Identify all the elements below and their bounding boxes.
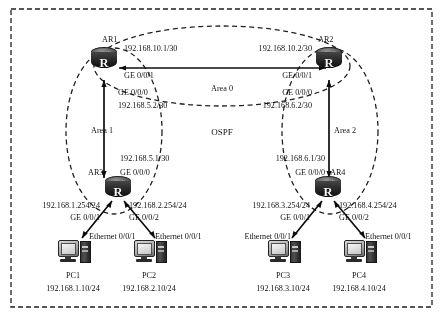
pc-screen xyxy=(61,243,76,255)
router-label-ar4: AR4 xyxy=(330,168,345,177)
pc4-address: 192.168.4.10/24 xyxy=(332,284,385,293)
router-label-ar3: AR3 xyxy=(88,168,103,177)
pc-stand-base xyxy=(136,259,152,262)
pc2-address: 192.168.2.10/24 xyxy=(122,284,175,293)
link-ar1-ar2-arrow-left xyxy=(119,65,126,70)
pc3-address: 192.168.3.10/24 xyxy=(256,284,309,293)
ar4-ge000-address: 192.168.6.1/30 xyxy=(276,154,325,163)
ar3-ge001-address: 192.168.1.254/24 xyxy=(42,201,100,210)
host-pc3[interactable] xyxy=(267,240,301,267)
ar3-ge001-port: GE 0/0/1 xyxy=(70,213,100,222)
ar1-ge000-address: 192.168.5.2/30 xyxy=(118,101,167,110)
pc-stand-base xyxy=(270,259,286,262)
ar2-ge000-port: GE 0/0/0 xyxy=(282,88,312,97)
area-1-label: Area 1 xyxy=(91,126,113,135)
ar4-ge002-port: GE 0/0/2 xyxy=(339,213,369,222)
ar4-ge000-port: GE 0/0/0 xyxy=(295,168,325,177)
link-ar1-ar3-arrow-top xyxy=(101,80,106,87)
pc-monitor xyxy=(268,240,289,257)
link-ar2-ar4-arrow-top xyxy=(326,80,331,87)
pc3-label: PC3 xyxy=(276,271,290,280)
router-glyph: R xyxy=(89,56,119,70)
router-glyph: R xyxy=(313,185,343,199)
pc-stand-base xyxy=(346,259,362,262)
router-glyph: R xyxy=(103,185,133,199)
host-pc4[interactable] xyxy=(343,240,377,267)
pc4-port-label: Ethernet 0/0/1 xyxy=(365,232,412,241)
area-2-label: Area 2 xyxy=(334,126,356,135)
pc-screen xyxy=(347,243,362,255)
router-label-ar2: AR2 xyxy=(318,35,333,44)
pc-screen xyxy=(137,243,152,255)
router-ar3[interactable]: ⇄⇅ R xyxy=(103,176,133,201)
pc1-address: 192.168.1.10/24 xyxy=(46,284,99,293)
pc4-label: PC4 xyxy=(352,271,366,280)
pc1-label: PC1 xyxy=(66,271,80,280)
pc-monitor xyxy=(58,240,79,257)
host-pc2[interactable] xyxy=(133,240,167,267)
ar2-ge000-address: 192.168.6.2/30 xyxy=(263,101,312,110)
router-glyph: R xyxy=(314,56,344,70)
pc-tower xyxy=(80,241,91,263)
pc-screen xyxy=(271,243,286,255)
pc-monitor xyxy=(344,240,365,257)
ar4-ge001-address: 192.168.3.254/24 xyxy=(252,201,310,210)
ar2-ge001-address: 192.168.10.2/30 xyxy=(259,44,312,53)
ar4-ge002-address: 192.168.4.254/24 xyxy=(339,201,397,210)
ar3-ge002-port: GE 0/0/2 xyxy=(129,213,159,222)
ar1-ge001-port: GE 0/0/1 xyxy=(124,71,154,80)
pc3-port-label: Ethernet 0/0/1 xyxy=(244,232,291,241)
router-label-ar1: AR1 xyxy=(102,35,117,44)
router-ar4[interactable]: ⇄⇅ R xyxy=(313,176,343,201)
pc-stand-base xyxy=(60,259,76,262)
ar2-ge001-port: GE 0/0/1 xyxy=(282,71,312,80)
ar1-ge000-port: GE 0/0/0 xyxy=(118,88,148,97)
pc2-port-label: Ethernet 0/0/1 xyxy=(155,232,202,241)
ar3-ge000-address: 192.168.5.1/30 xyxy=(120,154,169,163)
pc-tower xyxy=(156,241,167,263)
protocol-label: OSPF xyxy=(211,128,233,137)
topology-canvas xyxy=(0,0,443,316)
ar4-ge001-port: GE 0/0/1 xyxy=(280,213,310,222)
ar3-ge002-address: 192.168.2.254/24 xyxy=(129,201,187,210)
host-pc1[interactable] xyxy=(57,240,91,267)
router-ar1[interactable]: ⇄⇅ R xyxy=(89,47,119,72)
ar3-ge000-port: GE 0/0/0 xyxy=(120,168,150,177)
pc2-label: PC2 xyxy=(142,271,156,280)
ar1-ge001-address: 192.168.10.1/30 xyxy=(124,44,177,53)
router-ar2[interactable]: ⇄⇅ R xyxy=(314,47,344,72)
pc1-port-label: Ethernet 0/0/1 xyxy=(89,232,136,241)
pc-tower xyxy=(290,241,301,263)
pc-monitor xyxy=(134,240,155,257)
pc-tower xyxy=(366,241,377,263)
area-0-label: Area 0 xyxy=(211,84,233,93)
